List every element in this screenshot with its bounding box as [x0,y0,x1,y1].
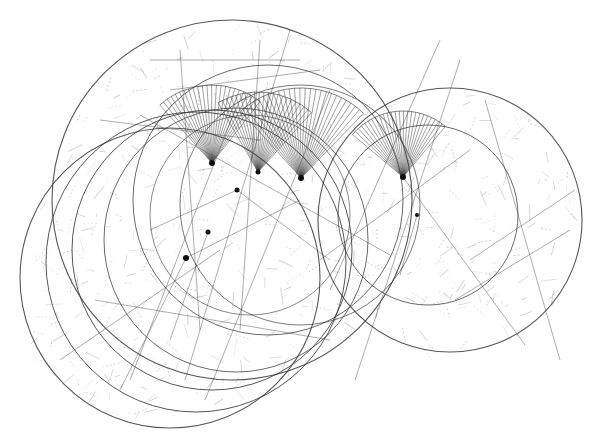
convergence-node [415,213,419,217]
convergence-node [298,175,304,181]
convergence-node [400,174,406,180]
convergence-node [256,170,261,175]
abstract-artwork-canvas [0,0,593,442]
convergence-node [209,160,215,166]
convergence-node [235,188,240,193]
convergence-node [183,255,189,261]
convergence-node [206,230,211,235]
geometric-line-drawing [0,0,593,442]
artwork-background [0,0,593,442]
